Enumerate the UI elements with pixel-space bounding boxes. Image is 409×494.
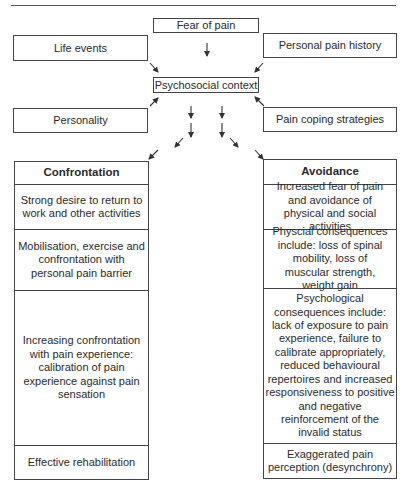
arrow-to-avoidance-1 [230, 138, 238, 147]
arrow-life-events-to-context [150, 63, 158, 72]
arrow-to-avoidance-2 [255, 150, 263, 159]
arrow-to-confrontation-1 [175, 138, 183, 147]
arrow-personality-to-context [150, 98, 158, 106]
arrows-layer [0, 0, 409, 494]
arrow-coping-to-context [255, 97, 264, 106]
arrow-history-to-context [255, 63, 263, 72]
arrow-to-confrontation-2 [149, 150, 158, 159]
